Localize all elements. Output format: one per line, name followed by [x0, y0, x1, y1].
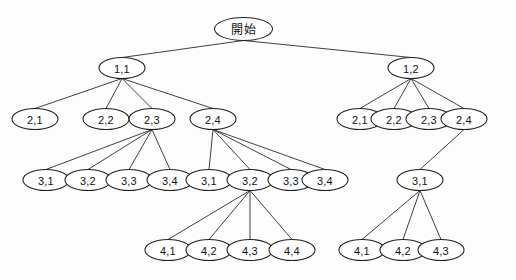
- node-label: 3,2: [242, 175, 258, 187]
- node-label: 開始: [231, 23, 256, 37]
- tree-node[interactable]: 4,3: [418, 240, 464, 261]
- tree-edge: [250, 191, 292, 240]
- tree-edge: [168, 191, 250, 240]
- node-label: 3,1: [201, 175, 217, 187]
- node-label: 2,4: [456, 114, 472, 126]
- node-label: 3,3: [283, 175, 299, 187]
- node-label: 3,4: [317, 175, 333, 187]
- tree-edge: [46, 130, 152, 170]
- tree-edge: [122, 41, 244, 58]
- tree-edge: [209, 191, 250, 240]
- tree-node[interactable]: 3,1: [186, 170, 232, 191]
- node-label: 1,2: [403, 63, 419, 75]
- tree-node[interactable]: 3,2: [227, 170, 273, 191]
- node-label: 2,4: [205, 114, 221, 126]
- tree-node[interactable]: 4,1: [145, 240, 191, 261]
- tree-node[interactable]: 2,1: [12, 109, 58, 130]
- node-label: 4,4: [284, 245, 300, 257]
- node-label: 2,2: [98, 114, 114, 126]
- tree-edge: [244, 41, 412, 58]
- tree-diagram: 開始1,11,22,12,22,32,42,12,22,32,43,13,23,…: [0, 0, 516, 280]
- tree-edge: [88, 130, 152, 170]
- tree-node[interactable]: 2,2: [83, 109, 129, 130]
- tree-canvas: 開始1,11,22,12,22,32,42,12,22,32,43,13,23,…: [0, 0, 516, 280]
- tree-node[interactable]: 1,2: [388, 58, 434, 79]
- tree-edge: [209, 130, 213, 170]
- tree-edge: [420, 130, 464, 170]
- tree-edge: [213, 130, 250, 170]
- tree-node[interactable]: 3,1: [23, 170, 69, 191]
- tree-node[interactable]: 3,3: [106, 170, 152, 191]
- tree-edge: [213, 130, 291, 170]
- node-label: 3,2: [80, 175, 96, 187]
- tree-edge: [122, 79, 213, 109]
- tree-node[interactable]: 3,2: [65, 170, 111, 191]
- node-label: 2,2: [386, 114, 402, 126]
- tree-node[interactable]: 4,2: [186, 240, 232, 261]
- tree-edge: [360, 79, 411, 109]
- tree-edge: [411, 79, 429, 109]
- node-label: 4,2: [395, 245, 411, 257]
- node-label: 2,1: [27, 114, 43, 126]
- node-label: 4,1: [354, 245, 370, 257]
- node-label: 4,2: [201, 245, 217, 257]
- node-label: 3,4: [162, 175, 178, 187]
- tree-node[interactable]: 2,3: [129, 109, 175, 130]
- node-label: 1,1: [114, 63, 130, 75]
- tree-edge: [35, 79, 122, 109]
- tree-edge: [152, 130, 170, 170]
- node-label: 4,3: [433, 245, 449, 257]
- node-label: 3,1: [38, 175, 54, 187]
- tree-node[interactable]: 3,4: [302, 170, 348, 191]
- node-label: 4,1: [160, 245, 176, 257]
- node-label: 2,3: [421, 114, 437, 126]
- tree-node[interactable]: 4,4: [269, 240, 315, 261]
- tree-node[interactable]: 1,1: [99, 58, 145, 79]
- node-label: 4,3: [242, 245, 258, 257]
- tree-node[interactable]: 4,3: [227, 240, 273, 261]
- node-label: 3,1: [412, 175, 428, 187]
- tree-edge: [213, 130, 325, 170]
- tree-node[interactable]: 2,4: [441, 109, 487, 130]
- tree-node[interactable]: 2,4: [190, 109, 236, 130]
- node-label: 3,3: [121, 175, 137, 187]
- node-label: 2,3: [144, 114, 160, 126]
- tree-edge: [411, 79, 464, 109]
- tree-node[interactable]: 開始: [215, 18, 273, 41]
- node-label: 2,1: [352, 114, 368, 126]
- tree-node[interactable]: 4,1: [339, 240, 385, 261]
- tree-node[interactable]: 3,1: [397, 170, 443, 191]
- nodes-layer: 開始1,11,22,12,22,32,42,12,22,32,43,13,23,…: [12, 18, 487, 261]
- tree-edge: [420, 191, 441, 240]
- tree-edge: [129, 130, 152, 170]
